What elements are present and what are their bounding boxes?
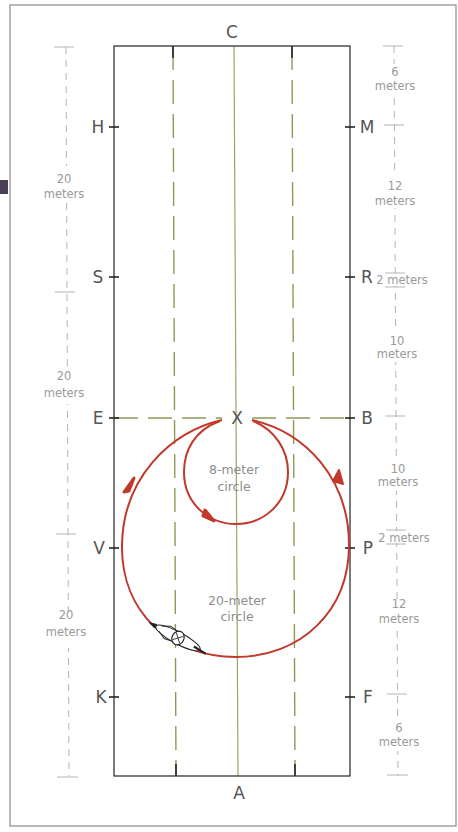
letter-b: B	[361, 408, 373, 428]
quarter-line-left	[173, 46, 176, 776]
left-dim-3-value: 20	[59, 608, 74, 622]
right-dim-4-value: 10	[390, 334, 405, 348]
letter-p: P	[363, 538, 373, 558]
letter-k: K	[95, 687, 107, 707]
left-dim-2-unit: meters	[44, 386, 85, 400]
left-dim-2-value: 20	[57, 369, 72, 383]
arrow-inner-circle-icon	[203, 510, 214, 521]
right-dim-2-value: 12	[388, 179, 403, 193]
twenty-meter-label-line1: 20-meter	[208, 593, 267, 608]
right-dim-2-unit: meters	[375, 194, 416, 208]
arrow-right-up-icon	[333, 470, 343, 484]
left-dim-3-unit: meters	[46, 625, 87, 639]
right-dim-8-value: 6	[395, 721, 402, 735]
dressage-arena-diagram: C A X H S E V K M R B P F 20 meters 20 m…	[0, 0, 458, 832]
right-dim-5-unit: meters	[378, 475, 419, 489]
right-dimension-scale	[370, 46, 432, 776]
right-dim-6-value: 2 meters	[378, 531, 430, 545]
arrow-left-down-icon	[124, 478, 134, 492]
letter-m: M	[360, 117, 375, 137]
letter-s: S	[93, 267, 104, 287]
right-dim-7-value: 12	[392, 597, 407, 611]
right-dim-5-value: 10	[391, 462, 406, 476]
twenty-meter-label-line2: circle	[220, 609, 254, 624]
left-dim-1-value: 20	[57, 172, 72, 186]
left-dim-1-unit: meters	[44, 187, 85, 201]
letter-h: H	[92, 117, 105, 137]
quarter-line-right	[292, 46, 295, 776]
letter-e: E	[93, 408, 104, 428]
right-dim-3-value: 2 meters	[376, 273, 428, 287]
right-dim-8-unit: meters	[379, 735, 420, 749]
left-dimension-scale	[38, 47, 94, 777]
letter-x: X	[231, 408, 243, 428]
eight-meter-label-line1: 8-meter	[209, 462, 260, 477]
letter-r: R	[361, 267, 373, 287]
right-dim-1-unit: meters	[375, 79, 416, 93]
right-dim-1-value: 6	[391, 65, 398, 79]
letter-f: F	[363, 687, 373, 707]
right-dim-7-unit: meters	[379, 612, 420, 626]
letter-v: V	[93, 538, 105, 558]
letter-c: C	[226, 22, 238, 42]
eight-meter-label-line2: circle	[217, 479, 251, 494]
letter-a: A	[233, 783, 245, 803]
right-dim-4-unit: meters	[377, 347, 418, 361]
